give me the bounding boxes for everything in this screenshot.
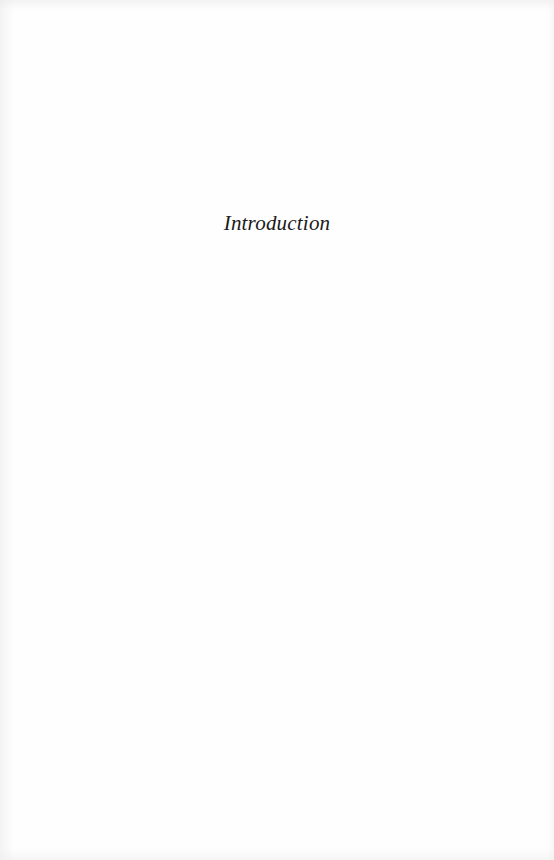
book-page: Introduction	[0, 0, 554, 860]
page-heading: Introduction	[0, 211, 554, 236]
